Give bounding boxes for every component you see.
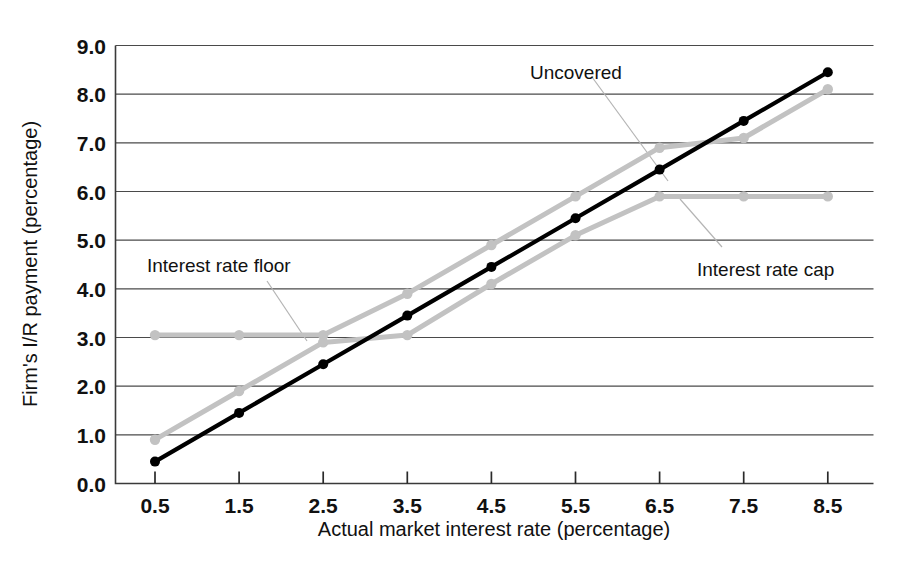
- data-point-marker: [823, 84, 833, 94]
- x-tick-label: 3.5: [393, 494, 423, 517]
- data-point-marker: [739, 133, 749, 143]
- y-tick-label: 2.0: [77, 375, 106, 398]
- y-tick-label: 5.0: [77, 229, 106, 252]
- x-tick-label: 6.5: [645, 494, 675, 517]
- data-point-marker: [486, 279, 496, 289]
- chart-background: [0, 0, 915, 582]
- data-point-marker: [486, 262, 496, 272]
- chart-figure: 0.01.02.03.04.05.06.07.08.09.0 0.51.52.5…: [0, 0, 915, 582]
- data-point-marker: [655, 165, 665, 175]
- data-point-marker: [654, 191, 664, 201]
- x-tick-label: 2.5: [309, 494, 339, 517]
- data-point-marker: [570, 191, 580, 201]
- data-point-marker: [486, 240, 496, 250]
- x-tick-label: 0.5: [140, 494, 170, 517]
- data-point-marker: [150, 435, 160, 445]
- data-point-marker: [823, 67, 833, 77]
- data-point-marker: [318, 337, 328, 347]
- y-axis-title: Firm's I/R payment (percentage): [19, 121, 41, 407]
- line-chart-svg: 0.01.02.03.04.05.06.07.08.09.0 0.51.52.5…: [0, 0, 915, 582]
- data-point-marker: [318, 359, 328, 369]
- y-tick-label: 3.0: [77, 327, 106, 350]
- data-point-marker: [402, 289, 412, 299]
- x-tick-label: 1.5: [224, 494, 254, 517]
- data-point-marker: [402, 330, 412, 340]
- y-tick-label: 6.0: [77, 181, 106, 204]
- x-tick-label: 4.5: [477, 494, 507, 517]
- y-tick-label: 8.0: [77, 83, 106, 106]
- y-tick-label: 1.0: [77, 424, 106, 447]
- data-point-marker: [739, 191, 749, 201]
- data-point-marker: [234, 386, 244, 396]
- data-point-marker: [823, 191, 833, 201]
- annotation-uncovered: Uncovered: [530, 62, 622, 83]
- x-tick-label: 5.5: [561, 494, 591, 517]
- data-point-marker: [402, 311, 412, 321]
- annotation-interest-rate-floor: Interest rate floor: [147, 255, 291, 276]
- x-tick-label: 7.5: [729, 494, 759, 517]
- data-point-marker: [234, 408, 244, 418]
- y-tick-label: 0.0: [77, 473, 106, 496]
- annotation-interest-rate-cap: Interest rate cap: [697, 259, 834, 280]
- data-point-marker: [571, 213, 581, 223]
- data-point-marker: [234, 330, 244, 340]
- y-tick-label: 4.0: [77, 278, 106, 301]
- data-point-marker: [150, 457, 160, 467]
- data-point-marker: [150, 330, 160, 340]
- y-tick-label: 7.0: [77, 132, 106, 155]
- x-tick-label: 8.5: [813, 494, 843, 517]
- data-point-marker: [570, 230, 580, 240]
- data-point-marker: [654, 143, 664, 153]
- data-point-marker: [739, 116, 749, 126]
- x-tick-labels-group: 0.51.52.53.54.55.56.57.58.5: [140, 494, 842, 517]
- y-tick-label: 9.0: [77, 35, 106, 58]
- x-axis-title: Actual market interest rate (percentage): [318, 518, 670, 540]
